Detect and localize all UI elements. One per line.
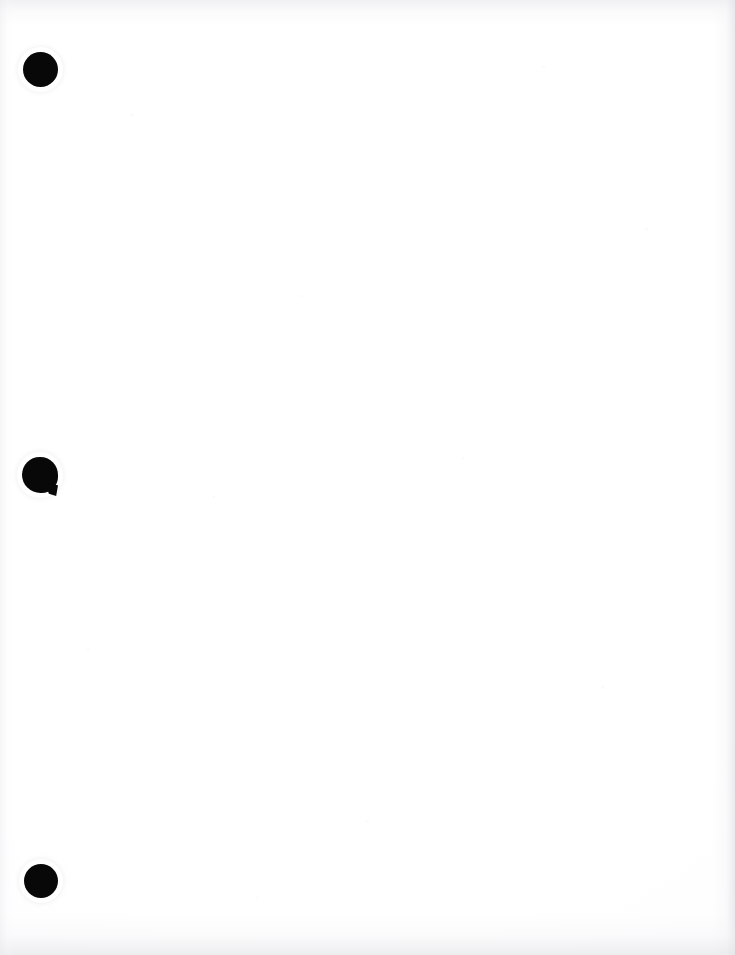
binder-hole-top [23,52,58,87]
binder-hole-bottom [24,864,58,898]
scanned-page [0,0,735,955]
page-body-text [90,60,690,900]
